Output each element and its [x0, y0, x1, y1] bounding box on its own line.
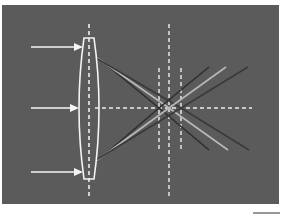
diagram-background — [2, 5, 279, 204]
lens-diagram — [0, 0, 283, 215]
